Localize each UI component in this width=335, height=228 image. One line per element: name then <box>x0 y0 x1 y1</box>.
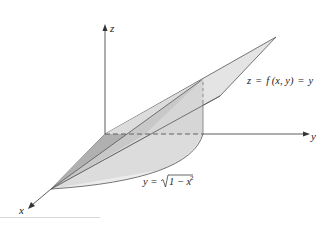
x-axis-label: x <box>18 204 24 216</box>
surface-args: (x, y) <box>272 75 294 87</box>
y-axis-arrow-icon <box>303 132 310 137</box>
x-axis <box>32 189 51 205</box>
surface-diagram: z y x z = f (x, y) = y y = 1 − x 2 <box>0 0 335 228</box>
surface-equation-label: z = f (x, y) = y <box>246 75 314 87</box>
z-axis-arrow-icon <box>103 24 108 31</box>
bottom-rule <box>0 217 100 218</box>
z-axis-label: z <box>109 22 115 34</box>
curve-lhs-text: y <box>142 176 148 187</box>
surface-func: f <box>266 75 271 86</box>
curve-radicand: 1 − x <box>169 176 192 187</box>
y-axis-label: y <box>310 130 316 142</box>
surface-lhs: z <box>246 75 251 86</box>
surface-eq2: = <box>298 75 304 86</box>
curve-exponent: 2 <box>190 174 194 182</box>
surface-rhs: y <box>308 75 314 86</box>
surface-eq1: = <box>256 75 262 86</box>
curve-eq: = <box>151 176 157 187</box>
